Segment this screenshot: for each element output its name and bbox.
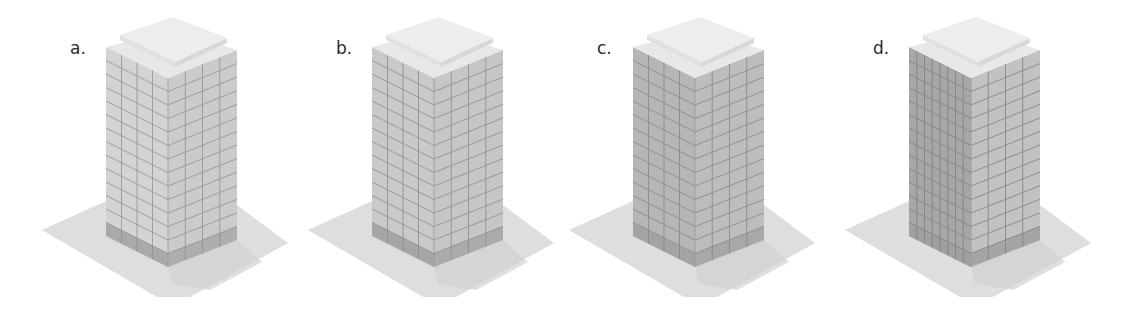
panel-label-d: d. bbox=[873, 40, 889, 57]
panel-label-a: a. bbox=[70, 40, 86, 57]
panel-a: a. bbox=[0, 0, 270, 322]
tower-d-illustration bbox=[803, 0, 1073, 322]
building-facade-comparison-figure: a. b. c. d. bbox=[0, 0, 1123, 322]
tower-c-illustration bbox=[527, 0, 797, 322]
panel-label-b: b. bbox=[336, 40, 352, 57]
panel-label-c: c. bbox=[597, 40, 612, 57]
panel-d: d. bbox=[803, 0, 1073, 322]
panel-c: c. bbox=[527, 0, 797, 322]
panel-b: b. bbox=[266, 0, 536, 322]
tower-a-illustration bbox=[0, 0, 270, 322]
tower-b-illustration bbox=[266, 0, 536, 322]
